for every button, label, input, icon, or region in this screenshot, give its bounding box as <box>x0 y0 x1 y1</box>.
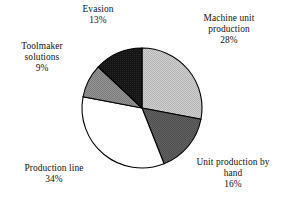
slice-label-unit-production-by-hand-name-line2: hand <box>178 168 288 179</box>
pie-slices <box>82 48 202 168</box>
slice-label-production-line: Production line 34% <box>2 163 106 185</box>
slice-label-toolmaker-solutions-value: 9% <box>2 63 82 74</box>
slice-label-production-line-value: 34% <box>2 174 106 185</box>
slice-label-evasion: Evasion 13% <box>62 4 134 26</box>
slice-label-unit-production-by-hand-value: 16% <box>178 179 288 190</box>
slice-label-unit-production-by-hand-name-line1: Unit production by <box>178 157 288 168</box>
slice-label-evasion-value: 13% <box>62 15 134 26</box>
pie-slice-machine-unit-production <box>142 48 202 119</box>
pie-chart: Evasion 13% Machine unit production 28% … <box>0 0 290 207</box>
slice-label-machine-unit-production: Machine unit production 28% <box>176 13 282 47</box>
slice-label-toolmaker-solutions-name-line2: solutions <box>2 52 82 63</box>
slice-label-production-line-name: Production line <box>2 163 106 174</box>
slice-label-machine-unit-production-name-line1: Machine unit <box>176 13 282 24</box>
slice-label-toolmaker-solutions-name-line1: Toolmaker <box>2 41 82 52</box>
slice-label-evasion-name: Evasion <box>62 4 134 15</box>
slice-label-machine-unit-production-name-line2: production <box>176 24 282 35</box>
slice-label-unit-production-by-hand: Unit production by hand 16% <box>178 157 288 191</box>
slice-label-toolmaker-solutions: Toolmaker solutions 9% <box>2 41 82 75</box>
slice-label-machine-unit-production-value: 28% <box>176 35 282 46</box>
